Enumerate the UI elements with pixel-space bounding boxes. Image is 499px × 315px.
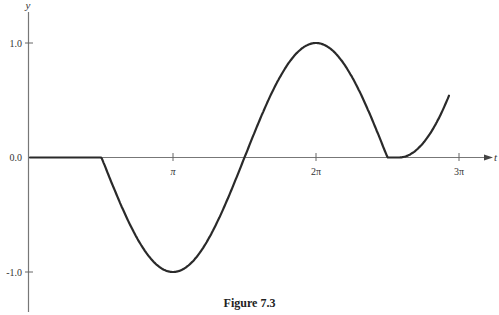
- x-tick-label: 3π: [454, 166, 464, 177]
- x-axis-arrow-icon: [484, 155, 493, 161]
- y-tick-label: -1.0: [6, 267, 22, 278]
- x-tick-label: π: [170, 166, 176, 177]
- x-axis-label: t: [494, 151, 498, 163]
- figure-caption: Figure 7.3: [0, 296, 499, 311]
- x-tick-label: 2π: [311, 166, 321, 177]
- x-ticks: π 2π 3π: [170, 153, 464, 177]
- y-tick-label: 0.0: [10, 152, 23, 163]
- y-tick-label: 1.0: [10, 38, 23, 49]
- line-chart: y t 1.0 0.0 -1.0 π 2π 3π: [0, 0, 499, 315]
- y-axis-label: y: [25, 0, 31, 11]
